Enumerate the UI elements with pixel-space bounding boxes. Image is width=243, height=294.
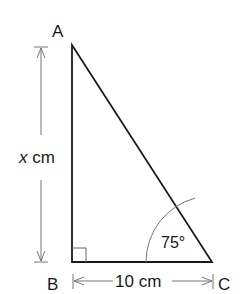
angle-c-label: 75° <box>161 234 185 251</box>
side-ab-unit: cm <box>28 148 55 167</box>
vertex-label-c: C <box>218 275 230 294</box>
triangle-abc <box>72 45 212 262</box>
side-bc-label: 10 cm <box>115 272 161 291</box>
triangle-diagram: A B C x cm 10 cm 75° <box>0 0 243 294</box>
side-ab-label: x cm <box>18 148 55 167</box>
right-angle-marker <box>72 248 86 262</box>
vertex-label-b: B <box>47 275 58 294</box>
side-ab-variable: x <box>18 148 28 167</box>
angle-arc-c <box>146 198 195 262</box>
vertex-label-a: A <box>52 22 64 41</box>
